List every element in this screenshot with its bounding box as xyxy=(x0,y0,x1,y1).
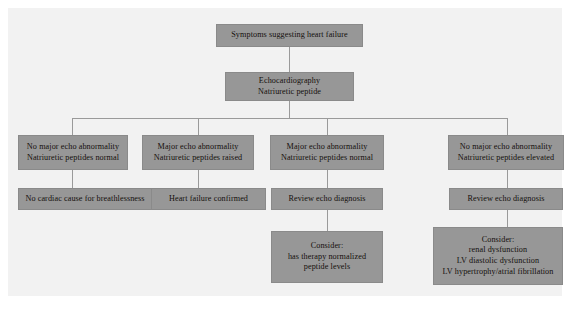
node-outcome-3[interactable]: Review echo diagnosis xyxy=(271,188,383,210)
node-outcome-2[interactable]: Heart failure confirmed xyxy=(151,188,266,210)
node-branch-2-line-1: Major echo abnormality xyxy=(158,142,239,153)
node-consider-4-line-1: Consider: xyxy=(482,235,515,246)
flowchart-panel: Symptoms suggesting heart failure Echoca… xyxy=(8,8,562,296)
node-branch-1[interactable]: No major echo abnormality Natriuretic pe… xyxy=(18,135,128,170)
node-branch-3[interactable]: Major echo abnormality Natriuretic pepti… xyxy=(270,135,384,170)
node-branch-4-line-1: No major echo abnormality xyxy=(460,142,552,153)
connector-branch3-to-outcome3 xyxy=(327,170,328,188)
connector-investigation-down xyxy=(289,101,290,118)
node-consider-3-line-2: has therapy normalized xyxy=(288,252,366,263)
node-outcome-2-line-1: Heart failure confirmed xyxy=(169,194,248,205)
node-outcome-1[interactable]: No cardiac cause for breathlessness xyxy=(18,188,152,210)
node-consider-3[interactable]: Consider: has therapy normalized peptide… xyxy=(271,231,383,283)
node-consider-3-line-1: Consider: xyxy=(311,241,344,252)
node-outcome-4[interactable]: Review echo diagnosis xyxy=(449,188,563,210)
node-consider-4[interactable]: Consider: renal dysfunction LV diastolic… xyxy=(433,227,563,285)
node-branch-2[interactable]: Major echo abnormality Natriuretic pepti… xyxy=(142,135,254,170)
node-consider-4-line-2: renal dysfunction xyxy=(469,245,527,256)
node-branch-4[interactable]: No major echo abnormality Natriuretic pe… xyxy=(448,135,564,170)
node-consider-3-line-3: peptide levels xyxy=(304,262,350,273)
connector-outcome3-to-consider3 xyxy=(327,210,328,231)
node-investigation-line-2: Natriuretic peptide xyxy=(258,87,321,98)
connector-bus-to-branch1 xyxy=(72,118,73,135)
connector-bus-to-branch3 xyxy=(327,118,328,135)
node-branch-3-line-2: Natriuretic peptides normal xyxy=(281,153,373,164)
connector-root-to-investigation xyxy=(289,47,290,72)
connector-branch2-to-outcome2 xyxy=(198,170,199,188)
node-root-line-1: Symptoms suggesting heart failure xyxy=(231,30,348,41)
node-outcome-4-line-1: Review echo diagnosis xyxy=(467,194,544,205)
connector-outcome4-to-consider4 xyxy=(507,210,508,227)
node-investigation[interactable]: Echocardiography Natriuretic peptide xyxy=(225,72,354,101)
node-branch-2-line-2: Natriuretic peptides raised xyxy=(154,153,243,164)
node-branch-3-line-1: Major echo abnormality xyxy=(287,142,368,153)
node-outcome-1-line-1: No cardiac cause for breathlessness xyxy=(25,194,144,205)
connector-bus-to-branch2 xyxy=(198,118,199,135)
connector-branch-bus xyxy=(72,118,507,119)
node-consider-4-line-4: LV hypertrophy/atrial fibrillation xyxy=(443,267,554,278)
node-investigation-line-1: Echocardiography xyxy=(259,76,320,87)
node-branch-1-line-2: Natriuretic peptides normal xyxy=(27,153,119,164)
node-root-symptoms[interactable]: Symptoms suggesting heart failure xyxy=(216,24,363,47)
node-outcome-3-line-1: Review echo diagnosis xyxy=(288,194,365,205)
connector-branch1-to-outcome1 xyxy=(72,170,73,188)
connector-bus-to-branch4 xyxy=(507,118,508,135)
node-consider-4-line-3: LV diastolic dysfunction xyxy=(457,256,539,267)
connector-branch4-to-outcome4 xyxy=(507,170,508,188)
node-branch-1-line-1: No major echo abnormality xyxy=(27,142,119,153)
node-branch-4-line-2: Natriuretic peptides elevated xyxy=(458,153,554,164)
